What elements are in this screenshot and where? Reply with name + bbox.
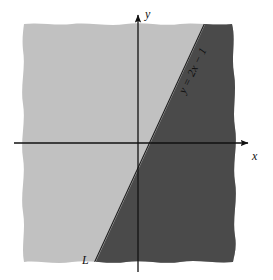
y-axis-label: y <box>144 7 151 21</box>
x-axis-label: x <box>251 149 258 163</box>
graph-figure: x y y = 2x − 1 L <box>0 0 273 280</box>
paper-texture <box>0 0 273 280</box>
region-marker-label: L <box>81 253 89 267</box>
